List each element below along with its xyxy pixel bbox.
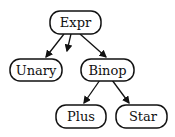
node-label-plus: Plus bbox=[67, 109, 95, 124]
node-label-star: Star bbox=[129, 109, 158, 124]
node-unary: Unary bbox=[10, 59, 62, 81]
edge-expr-unary bbox=[46, 34, 64, 57]
node-label-unary: Unary bbox=[16, 63, 57, 78]
edge-binop-star bbox=[112, 80, 129, 103]
node-label-binop: Binop bbox=[88, 63, 126, 78]
node-star: Star bbox=[116, 105, 167, 128]
tree-diagram: Expr Unary Binop Plus Star bbox=[0, 0, 175, 137]
node-label-expr: Expr bbox=[60, 15, 92, 30]
edge-binop-plus bbox=[84, 80, 100, 103]
node-expr: Expr bbox=[50, 11, 101, 34]
node-plus: Plus bbox=[56, 105, 106, 128]
node-binop: Binop bbox=[81, 59, 134, 81]
edge-expr-elided bbox=[67, 34, 71, 51]
edge-expr-binop bbox=[80, 34, 106, 57]
